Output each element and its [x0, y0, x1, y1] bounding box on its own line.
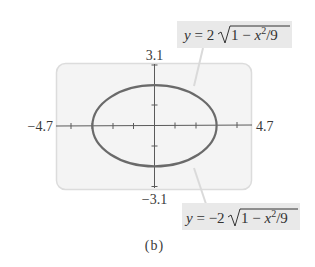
svg-text:y = 2: y = 2 [182, 27, 214, 43]
y-min-label: −3.1 [142, 192, 167, 207]
svg-text:y = −2: y = −2 [184, 210, 225, 226]
x-min-label: −4.7 [28, 119, 53, 134]
upper-equation-label: y = 2 1 − x2/9 [177, 21, 292, 48]
ellipse-graph-figure: 3.1 −3.1 −4.7 4.7 y = 2 1 − x2/9 y = −2 … [0, 0, 315, 267]
x-max-label: 4.7 [256, 119, 274, 134]
svg-text:1 − x2/9: 1 − x2/9 [241, 208, 288, 226]
lower-equation-label: y = −2 1 − x2/9 [182, 203, 300, 230]
svg-text:1 − x2/9: 1 − x2/9 [231, 25, 278, 43]
figure-caption: (b) [145, 238, 164, 254]
y-max-label: 3.1 [146, 48, 164, 63]
